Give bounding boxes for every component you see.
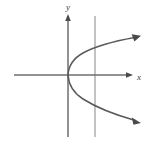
lower-branch-arrowhead-icon: [132, 117, 141, 124]
parabola-figure: x y: [0, 0, 146, 152]
x-axis-arrowhead-icon: [126, 72, 133, 78]
x-axis-label: x: [136, 72, 141, 82]
coordinate-plot-svg: x y: [0, 0, 146, 152]
y-axis-arrowhead-icon: [65, 14, 71, 21]
y-axis-label: y: [65, 2, 70, 12]
parabola-upper-branch: [68, 38, 135, 75]
parabola-lower-branch: [68, 75, 135, 120]
upper-branch-arrowhead-icon: [132, 34, 141, 41]
